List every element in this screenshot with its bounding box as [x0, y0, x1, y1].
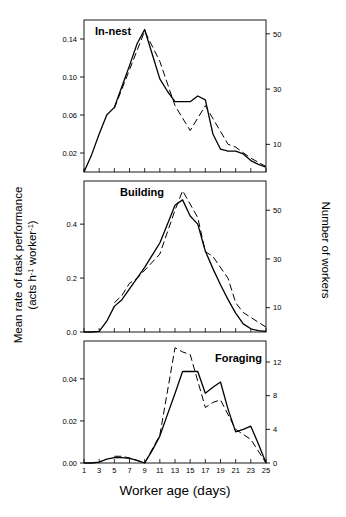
x-tick-label: 17 — [201, 466, 209, 475]
x-tick-label: 9 — [143, 466, 147, 475]
x-tick-label: 3 — [97, 466, 101, 475]
y-tick-label-left: 0.10 — [62, 73, 77, 82]
x-tick-label: 21 — [231, 466, 239, 475]
series-line-mean-rate-of-task-performance — [84, 30, 266, 173]
y-axis-title-left-units: (acts h-1 worker-1) — [26, 220, 38, 310]
x-tick-label: 19 — [216, 466, 224, 475]
x-tick-label: 15 — [186, 466, 194, 475]
y-tick-label-right: 30 — [273, 85, 281, 94]
y-tick-label-right: 4 — [273, 425, 277, 434]
x-tick-label: 13 — [171, 466, 179, 475]
x-axis-title: Worker age (days) — [120, 483, 231, 498]
panel-title-in-nest: In-nest — [95, 25, 131, 37]
y-axis-title-left: Mean rate of task performance — [12, 187, 24, 344]
y-tick-label-right: 10 — [273, 303, 281, 312]
panel-building: 0.00.20.4103050Building — [67, 181, 282, 337]
panel-title-foraging: Foraging — [215, 352, 262, 364]
y-tick-label-right: 12 — [273, 358, 281, 367]
y-tick-label-right: 10 — [273, 140, 281, 149]
panel-foraging: 0.000.020.0404812135791113151719212325Fo… — [62, 341, 281, 475]
y-tick-label-right: 50 — [273, 206, 281, 215]
panel-frame — [84, 181, 266, 332]
figure-container: 0.020.060.100.14103050In-nest0.00.20.410… — [0, 0, 346, 517]
series-line-number-of-workers — [114, 348, 266, 463]
series-line-number-of-workers — [114, 31, 266, 166]
y-tick-label-left: 0.02 — [62, 417, 77, 426]
x-tick-label: 7 — [127, 466, 131, 475]
y-tick-label-left: 0.14 — [62, 35, 77, 44]
series-line-number-of-workers — [114, 191, 266, 327]
y-tick-label-right: 30 — [273, 255, 281, 264]
multi-panel-line-chart: 0.020.060.100.14103050In-nest0.00.20.410… — [0, 0, 346, 517]
x-tick-label: 1 — [82, 466, 86, 475]
x-tick-label: 11 — [156, 466, 164, 475]
y-tick-label-left: 0.02 — [62, 149, 77, 158]
y-tick-label-left: 0.00 — [62, 459, 77, 468]
panel-in-nest: 0.020.060.100.14103050In-nest — [62, 20, 281, 172]
axis-titles: Worker age (days)Mean rate of task perfo… — [12, 187, 332, 498]
y-tick-label-right: 50 — [273, 30, 281, 39]
x-tick-label: 5 — [112, 466, 116, 475]
y-tick-label-left: 0.06 — [62, 111, 77, 120]
y-tick-label-right: 8 — [273, 391, 277, 400]
series-line-mean-rate-of-task-performance — [84, 200, 266, 332]
x-tick-label: 25 — [262, 466, 270, 475]
series-line-mean-rate-of-task-performance — [84, 372, 266, 464]
x-tick-label: 23 — [247, 466, 255, 475]
y-tick-label-left: 0.04 — [62, 375, 77, 384]
y-tick-label-left: 0.2 — [67, 274, 77, 283]
y-tick-label-right: 0 — [273, 459, 277, 468]
y-tick-label-left: 0.4 — [67, 220, 77, 229]
y-tick-label-left: 0.0 — [67, 328, 77, 337]
panel-title-building: Building — [120, 186, 164, 198]
y-axis-title-right: Number of workers — [320, 201, 332, 298]
